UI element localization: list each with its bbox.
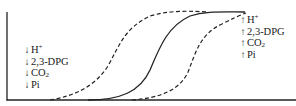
- right-label-h-plus: ↑H+: [239, 14, 285, 26]
- oxygen-dissociation-diagram: ↓H+ ↓2,3-DPG ↓CO2 ↓Pi ↑H+ ↑2,3-DPG ↑CO2 …: [0, 0, 296, 106]
- left-label-dpg: ↓2,3-DPG: [23, 56, 69, 68]
- left-label-co2: ↓CO2: [23, 67, 69, 79]
- right-label-co2: ↑CO2: [239, 37, 285, 49]
- down-arrow-icon: ↓: [23, 67, 31, 79]
- up-arrow-icon: ↑: [239, 49, 247, 61]
- down-arrow-icon: ↓: [23, 79, 31, 91]
- left-shifted-curve: [50, 11, 207, 100]
- left-label-pi: ↓Pi: [23, 79, 69, 91]
- normal-curve: [88, 12, 245, 100]
- down-arrow-icon: ↓: [23, 44, 31, 56]
- right-shifted-curve: [132, 13, 246, 100]
- right-shift-label-group: ↑H+ ↑2,3-DPG ↑CO2 ↑Pi: [239, 14, 285, 60]
- right-label-dpg: ↑2,3-DPG: [239, 26, 285, 38]
- up-arrow-icon: ↑: [239, 26, 247, 38]
- left-shift-label-group: ↓H+ ↓2,3-DPG ↓CO2 ↓Pi: [23, 44, 69, 90]
- down-arrow-icon: ↓: [23, 56, 31, 68]
- up-arrow-icon: ↑: [239, 14, 247, 26]
- right-label-pi: ↑Pi: [239, 49, 285, 61]
- up-arrow-icon: ↑: [239, 37, 247, 49]
- left-label-h-plus: ↓H+: [23, 44, 69, 56]
